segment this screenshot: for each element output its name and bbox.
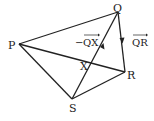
segment-SR bbox=[72, 72, 125, 99]
label-Q: Q bbox=[113, 2, 122, 15]
vector-label-neg-QX: QX bbox=[83, 37, 99, 48]
label-X: X bbox=[80, 60, 88, 73]
segment-QR bbox=[118, 12, 125, 72]
label-R: R bbox=[127, 69, 136, 82]
segments bbox=[19, 12, 125, 99]
label-S: S bbox=[69, 102, 77, 115]
vector-label-QR: QR bbox=[132, 37, 148, 48]
segment-PR bbox=[19, 44, 125, 72]
vector-arrowhead-QX-icon bbox=[98, 34, 100, 37]
segment-PS bbox=[19, 44, 72, 99]
geometry-diagram: P Q R S X − QX QR bbox=[0, 0, 154, 121]
label-P: P bbox=[8, 39, 16, 52]
